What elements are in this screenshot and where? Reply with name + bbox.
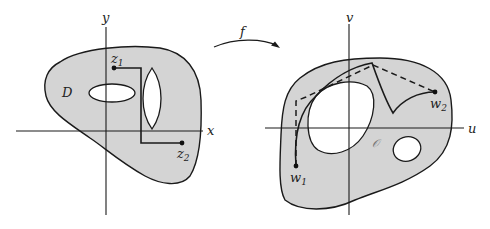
y-axis-label: y (101, 10, 110, 25)
right-panel: v u 𝒪 w1 w2 (265, 10, 476, 215)
u-axis-label: u (468, 121, 476, 136)
point-w1 (294, 164, 299, 169)
arrowhead-icon (271, 42, 280, 49)
mapping-label-f: f (239, 24, 247, 39)
point-z2 (180, 141, 185, 146)
left-panel: y x D z1 z2 (16, 10, 215, 215)
x-axis-label: x (207, 123, 215, 138)
region-d-label: D (61, 85, 73, 100)
conformal-mapping-figure: y x D z1 z2 f v u 𝒪 (0, 0, 490, 229)
mapping-arrow: f (214, 24, 280, 48)
ellipse-hole (89, 84, 135, 102)
point-z1 (112, 66, 117, 71)
arrow-curve (214, 40, 278, 47)
point-w2 (433, 90, 438, 95)
v-axis-label: v (346, 10, 354, 25)
